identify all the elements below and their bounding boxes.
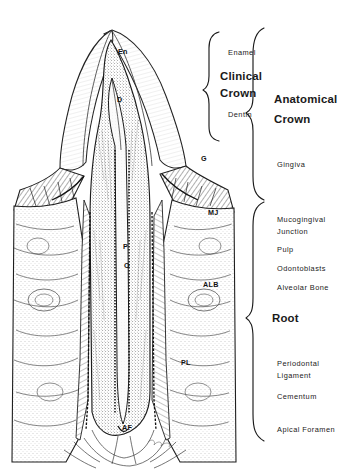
label-clinical-crown-line1: Clinical	[220, 70, 262, 82]
label-alveolar-bone: Alveolar Bone	[277, 283, 329, 292]
label-mucogingival-line1: Mucogingival	[277, 215, 326, 224]
inner-label-pl: PL	[181, 358, 191, 367]
inner-label-af: AF	[122, 423, 132, 432]
inner-label-o: O	[124, 261, 130, 270]
label-periodontal-line1: Periodontal	[277, 359, 319, 368]
inner-label-p: P	[123, 242, 128, 251]
label-periodontal-line2: Ligament	[277, 371, 311, 380]
label-pulp: Pulp	[277, 245, 294, 254]
label-cementum: Cementum	[277, 392, 317, 401]
label-mucogingival-line2: Junction	[277, 227, 308, 236]
inner-label-en: En	[118, 47, 128, 56]
inner-label-alb: ALB	[203, 280, 219, 289]
tooth-anatomy-figure: En D G MJ P O ALB PL AF Enamel Clinical …	[0, 0, 347, 472]
label-anatomical-crown-line2: Crown	[274, 113, 310, 125]
label-clinical-crown-line2: Crown	[220, 87, 256, 99]
label-dentin: Dentin	[228, 110, 252, 119]
tooth-diagram-canvas: En D G MJ P O ALB PL AF Enamel Clinical …	[0, 0, 347, 472]
inner-label-g: G	[201, 154, 207, 163]
label-odontoblasts: Odontoblasts	[277, 264, 326, 273]
label-root: Root	[272, 312, 299, 324]
inner-label-d: D	[117, 95, 123, 104]
label-gingiva: Gingiva	[277, 160, 306, 169]
inner-label-mj: MJ	[208, 208, 219, 217]
label-apical-foramen: Apical Foramen	[277, 425, 335, 434]
label-anatomical-crown-line1: Anatomical	[274, 93, 337, 105]
label-enamel: Enamel	[228, 48, 256, 57]
